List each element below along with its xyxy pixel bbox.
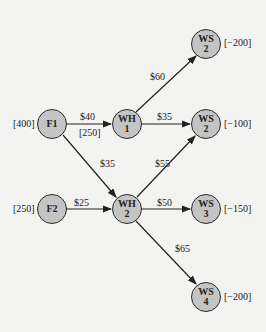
node-f2: F2 [37, 194, 67, 224]
network-edges [0, 0, 266, 332]
node-number: 2 [204, 44, 209, 54]
cost-wh2-wsmid: $55 [155, 158, 170, 169]
cost-wh2-ws3: $50 [157, 197, 172, 208]
cost-wh1-wstop: $60 [150, 71, 165, 82]
node-number: 3 [204, 209, 209, 219]
node-wh1: WH1 [112, 109, 142, 139]
demand-ws4: [−200] [224, 291, 251, 302]
demand-ws-mid: [−100] [224, 118, 251, 129]
cost-wh2-ws4: $65 [175, 243, 190, 254]
node-ws-mid: WS2 [191, 109, 221, 139]
node-number: 2 [204, 124, 209, 134]
node-ws3: WS3 [191, 194, 221, 224]
edge-wh1-wstop [136, 56, 196, 112]
cost-wh1-wsmid: $35 [157, 111, 172, 122]
demand-ws3: [−150] [224, 203, 251, 214]
node-f1: F1 [37, 109, 67, 139]
cost-f1-wh1: $40 [80, 111, 95, 122]
node-number: 2 [125, 209, 130, 219]
node-number: 4 [204, 297, 209, 307]
supply-f1: [400] [13, 118, 35, 129]
node-ws-top: WS2 [191, 29, 221, 59]
demand-ws-top: [−200] [224, 37, 251, 48]
supply-f2: [250] [13, 203, 35, 214]
node-ws4: WS4 [191, 282, 221, 312]
cost-f2-wh2: $25 [74, 197, 89, 208]
capacity-f1-wh1: [250] [79, 127, 101, 138]
node-label: F2 [46, 204, 57, 214]
node-number: 1 [125, 124, 130, 134]
node-wh2: WH2 [112, 194, 142, 224]
node-label: F1 [46, 119, 57, 129]
cost-f1-wh2: $35 [100, 158, 115, 169]
